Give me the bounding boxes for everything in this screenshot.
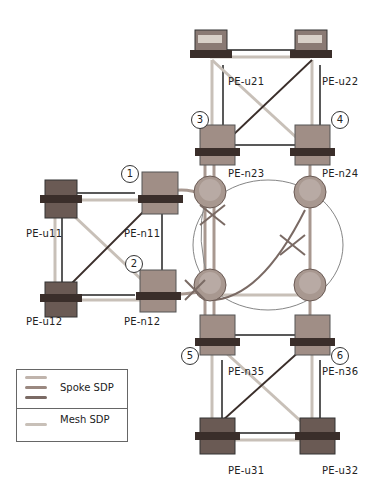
switch-u31 bbox=[195, 418, 240, 454]
spoke-swatch-3 bbox=[25, 396, 47, 399]
marker-5: 5 bbox=[181, 347, 199, 365]
label-pe-n24: PE-n24 bbox=[322, 168, 358, 179]
label-pe-n35: PE-n35 bbox=[228, 366, 264, 377]
label-pe-u22: PE-u22 bbox=[322, 76, 358, 87]
switch-u12 bbox=[40, 282, 82, 317]
spoke-swatch-2 bbox=[25, 386, 47, 389]
label-pe-u21: PE-u21 bbox=[228, 76, 264, 87]
router-n36 bbox=[294, 269, 326, 301]
router-n24 bbox=[294, 176, 326, 208]
marker-1: 1 bbox=[121, 165, 139, 183]
label-pe-n23: PE-n23 bbox=[228, 168, 264, 179]
label-pe-u31: PE-u31 bbox=[228, 465, 264, 476]
label-pe-u12: PE-u12 bbox=[26, 316, 62, 327]
legend-spoke-label: Spoke SDP bbox=[60, 382, 114, 393]
marker-6: 6 bbox=[331, 347, 349, 365]
switch-u11 bbox=[40, 180, 82, 218]
marker-4: 4 bbox=[331, 111, 349, 129]
label-pe-n36: PE-n36 bbox=[322, 366, 358, 377]
legend-spoke-row: Spoke SDP bbox=[17, 370, 127, 409]
legend-mesh-label: Mesh SDP bbox=[60, 414, 110, 425]
switch-n12 bbox=[136, 270, 181, 312]
spoke-swatch-1 bbox=[25, 376, 47, 379]
label-pe-n12: PE-n12 bbox=[124, 316, 160, 327]
marker-2: 2 bbox=[125, 255, 143, 273]
router-n23 bbox=[194, 176, 226, 208]
mesh-swatch bbox=[25, 423, 47, 426]
switch-n11 bbox=[138, 172, 183, 214]
switch-n24 bbox=[290, 125, 335, 165]
legend: Spoke SDP Mesh SDP bbox=[16, 369, 128, 442]
label-pe-u11: PE-u11 bbox=[26, 228, 62, 239]
switch-n23 bbox=[195, 125, 240, 165]
switch-u32 bbox=[295, 418, 340, 454]
switch-n35 bbox=[195, 315, 240, 355]
switch-n36 bbox=[290, 315, 335, 355]
spoke-sdp-lines bbox=[160, 155, 310, 340]
switch-u22 bbox=[290, 30, 332, 58]
label-pe-u32: PE-u32 bbox=[322, 465, 358, 476]
switch-u21 bbox=[190, 30, 232, 58]
label-pe-n11: PE-n11 bbox=[124, 228, 160, 239]
marker-3: 3 bbox=[191, 111, 209, 129]
